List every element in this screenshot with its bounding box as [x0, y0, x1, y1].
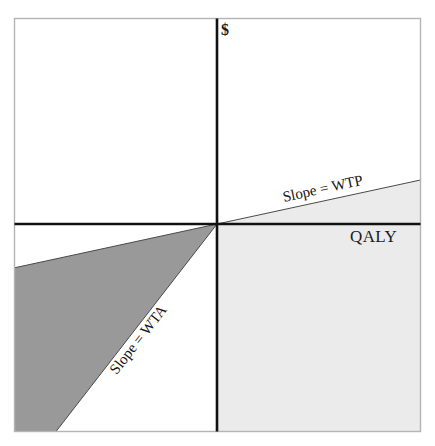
- quadrant-diagram-svg: [0, 0, 435, 446]
- x-axis-label-qaly: QALY: [350, 228, 397, 245]
- figure-container: $ QALY Slope = WTP Slope = WTA: [0, 0, 435, 446]
- y-axis-label-dollar: $: [221, 22, 229, 38]
